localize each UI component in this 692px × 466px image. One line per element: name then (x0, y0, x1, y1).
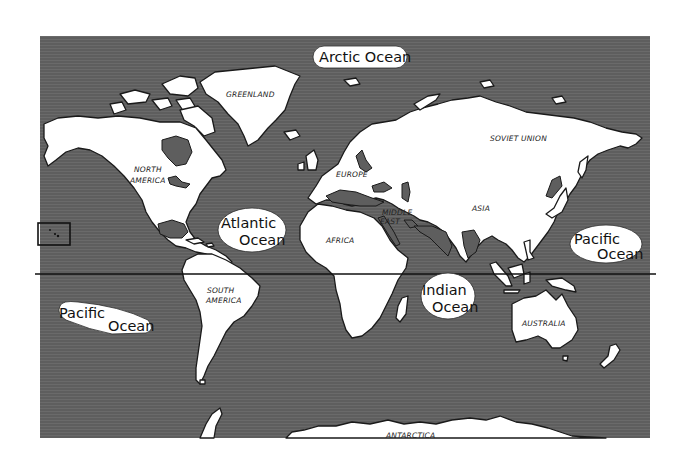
label-north-america-1: NORTH (134, 165, 162, 174)
hawaii-island (57, 235, 59, 237)
ocean-label-atlantic: Atlantic Ocean (218, 208, 286, 252)
label-asia: ASIA (471, 204, 490, 213)
label-australia: AUSTRALIA (521, 319, 566, 328)
arctic-ocean-text: Arctic Ocean (319, 49, 411, 65)
label-soviet-union: SOVIET UNION (490, 134, 547, 143)
label-africa: AFRICA (325, 236, 354, 245)
pacific-ocean-west-text-1: Pacific (59, 305, 105, 321)
atlantic-ocean-text-1: Atlantic (221, 215, 276, 231)
caspian-sea (402, 182, 410, 202)
hawaii-island (54, 233, 56, 235)
indian-ocean-text-2: Ocean (432, 299, 478, 315)
label-europe: EUROPE (336, 170, 368, 179)
label-greenland: GREENLAND (226, 90, 275, 99)
pacific-ocean-west-text-2: Ocean (108, 318, 154, 334)
ireland (298, 162, 304, 170)
pacific-ocean-east-text-1: Pacific (574, 231, 620, 247)
java (504, 290, 520, 293)
world-map: NORTH AMERICA SOUTH AMERICA GREENLAND EU… (0, 0, 692, 466)
pacific-ocean-east-text-2: Ocean (597, 246, 643, 262)
hawaii-island (49, 229, 51, 231)
label-south-america-1: SOUTH (207, 286, 235, 295)
ocean-label-arctic: Arctic Ocean (313, 46, 411, 68)
label-middle-east-2: EAST (380, 217, 401, 226)
atlantic-ocean-text-2: Ocean (239, 232, 285, 248)
label-north-america-2: AMERICA (129, 176, 166, 185)
indian-ocean-text-1: Indian (422, 282, 467, 298)
ocean-label-pacific-east: Pacific Ocean (570, 225, 643, 263)
tasmania (563, 356, 568, 361)
label-middle-east-1: MIDDLE (382, 208, 412, 217)
label-antarctica: ANTARCTICA (385, 431, 435, 440)
caribbean-island (206, 243, 214, 247)
label-south-america-2: AMERICA (205, 296, 242, 305)
falkland-island (200, 380, 205, 384)
